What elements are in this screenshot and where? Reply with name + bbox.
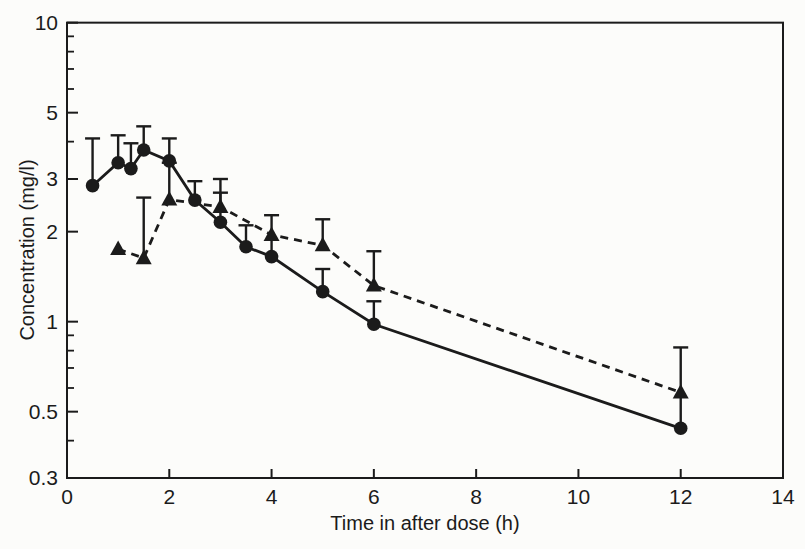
x-tick-label: 14 <box>771 485 795 508</box>
y-tick-label: 0.5 <box>29 400 58 423</box>
plot-frame <box>67 23 783 478</box>
y-tick-label: 2 <box>46 220 58 243</box>
series-markers-circle <box>86 143 688 435</box>
circle-marker <box>137 143 151 157</box>
x-tick-labels: 02468101214 <box>61 485 795 508</box>
triangle-marker <box>315 237 331 252</box>
circle-marker <box>162 154 176 168</box>
x-tick-label: 10 <box>567 485 590 508</box>
circle-marker <box>111 156 125 170</box>
triangle-marker <box>110 240 126 255</box>
series-line-triangle <box>118 200 681 393</box>
circle-marker <box>316 285 330 299</box>
circle-marker <box>239 240 253 254</box>
triangle-marker <box>161 191 177 206</box>
triangle-marker <box>264 226 280 241</box>
y-tick-label: 3 <box>46 167 58 190</box>
x-tick-label: 0 <box>61 485 73 508</box>
triangle-marker <box>366 277 382 292</box>
y-tick-label: 0.3 <box>29 466 58 489</box>
circle-marker <box>214 215 228 229</box>
figure: 024681012141053210.50.3 Concentration (m… <box>0 0 805 549</box>
circle-marker <box>674 421 688 435</box>
x-tick-label: 8 <box>470 485 482 508</box>
concentration-time-chart: 024681012141053210.50.3 <box>0 0 805 549</box>
y-axis-title: Concentration (mg/l) <box>15 130 39 370</box>
x-axis-title: Time in after dose (h) <box>225 512 625 535</box>
x-tick-label: 2 <box>163 485 175 508</box>
x-tick-label: 6 <box>368 485 380 508</box>
x-tick-label: 4 <box>266 485 278 508</box>
x-ticks <box>169 469 680 478</box>
circle-marker <box>265 250 279 264</box>
y-tick-label: 1 <box>46 310 58 333</box>
y-tick-label: 5 <box>46 101 58 124</box>
y-tick-label: 10 <box>35 11 58 34</box>
circle-marker <box>367 317 381 331</box>
series-line-circle <box>93 150 681 428</box>
series-markers-triangle <box>110 191 689 398</box>
circle-marker <box>124 162 138 176</box>
triangle-marker <box>212 198 228 213</box>
circle-marker <box>86 179 100 193</box>
circle-marker <box>188 193 202 207</box>
x-tick-label: 12 <box>669 485 692 508</box>
